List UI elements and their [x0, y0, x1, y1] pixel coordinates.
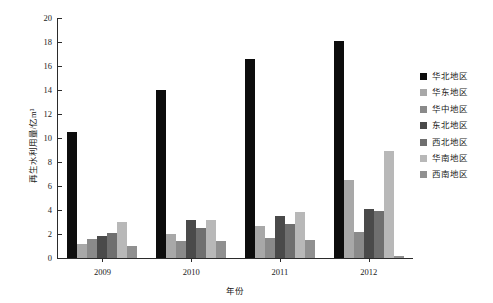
bar[interactable] [265, 238, 275, 258]
x-axis-title: 年份 [57, 284, 412, 296]
bar[interactable] [166, 234, 176, 258]
bar[interactable] [206, 220, 216, 258]
legend-swatch-icon [420, 171, 427, 178]
bar[interactable] [156, 90, 166, 258]
bar[interactable] [196, 228, 206, 258]
bar[interactable] [344, 180, 354, 258]
legend-item[interactable]: 华南地区 [420, 154, 490, 163]
bar[interactable] [364, 209, 374, 258]
legend-item[interactable]: 华中地区 [420, 105, 490, 114]
bar-set [334, 18, 404, 258]
bar[interactable] [384, 151, 394, 258]
chart-legend: 华北地区华东地区华中地区东北地区西北地区华南地区西南地区 [420, 72, 490, 179]
bar[interactable] [67, 132, 77, 258]
legend-swatch-icon [420, 155, 427, 162]
bar-group: 2012 [324, 18, 413, 258]
bar[interactable] [87, 239, 97, 258]
bar[interactable] [245, 59, 255, 258]
bar[interactable] [77, 244, 87, 258]
bar[interactable] [275, 216, 285, 258]
bar[interactable] [354, 232, 364, 258]
bar[interactable] [216, 241, 226, 258]
bar[interactable] [176, 241, 186, 258]
bar-group: 2010 [147, 18, 236, 258]
x-tick-mark [102, 258, 103, 262]
legend-swatch-icon [420, 89, 427, 96]
bar-set [156, 18, 226, 258]
bar-groups: 2009201020112012 [58, 18, 413, 258]
legend-swatch-icon [420, 139, 427, 146]
legend-label: 西南地区 [432, 170, 468, 179]
bar[interactable] [295, 212, 305, 258]
x-tick-label: 2011 [236, 267, 325, 277]
bar[interactable] [186, 220, 196, 258]
legend-swatch-icon [420, 73, 427, 80]
bar[interactable] [305, 240, 315, 258]
legend-swatch-icon [420, 106, 427, 113]
legend-label: 华北地区 [432, 72, 468, 81]
bar-group: 2011 [236, 18, 325, 258]
legend-swatch-icon [420, 122, 427, 129]
x-tick-mark [369, 258, 370, 262]
plot-area: 02468101214161820 2009201020112012 [57, 18, 413, 259]
bar[interactable] [285, 224, 295, 258]
legend-label: 东北地区 [432, 121, 468, 130]
x-tick-mark [191, 258, 192, 262]
legend-item[interactable]: 华北地区 [420, 72, 490, 81]
chart-figure: 再生水利用量/亿m³ 02468101214161820 20092010201… [0, 0, 493, 303]
bar[interactable] [394, 256, 404, 258]
y-tick-mark [58, 258, 62, 259]
bar[interactable] [97, 236, 107, 258]
legend-item[interactable]: 华东地区 [420, 88, 490, 97]
x-tick-label: 2012 [324, 267, 413, 277]
legend-item[interactable]: 东北地区 [420, 121, 490, 130]
legend-label: 西北地区 [432, 138, 468, 147]
bar[interactable] [107, 233, 117, 258]
bar[interactable] [127, 246, 137, 258]
legend-item[interactable]: 西南地区 [420, 170, 490, 179]
bar-set [245, 18, 315, 258]
bar[interactable] [334, 41, 344, 258]
legend-item[interactable]: 西北地区 [420, 138, 490, 147]
bar[interactable] [117, 222, 127, 258]
bar[interactable] [374, 211, 384, 258]
y-axis-title: 再生水利用量/亿m³ [26, 66, 38, 226]
bar-group: 2009 [58, 18, 147, 258]
legend-label: 华中地区 [432, 105, 468, 114]
bar-set [67, 18, 137, 258]
x-tick-label: 2009 [58, 267, 147, 277]
bar[interactable] [255, 226, 265, 258]
x-tick-mark [280, 258, 281, 262]
x-tick-label: 2010 [147, 267, 236, 277]
legend-label: 华南地区 [432, 154, 468, 163]
legend-label: 华东地区 [432, 88, 468, 97]
